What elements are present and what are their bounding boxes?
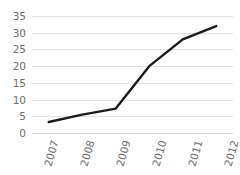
y-axis-tick-label: 5 — [19, 111, 26, 122]
y-axis-tick-label: 0 — [19, 128, 26, 139]
y-axis-tick-label: 25 — [13, 44, 26, 55]
y-axis-tick-label: 30 — [13, 27, 26, 38]
line-chart: 35 30 25 20 15 10 5 0 2007 2008 2009 201… — [0, 0, 240, 175]
series-polyline — [49, 26, 217, 122]
x-axis-tick-text: 2012 — [223, 139, 240, 168]
y-axis-tick-label: 35 — [13, 11, 26, 22]
x-axis-tick-labels: 2007 2008 2009 2010 2011 2012 — [32, 133, 233, 175]
x-axis-tick-text: 2007 — [43, 139, 60, 168]
x-axis-tick-text: 2009 — [115, 139, 132, 168]
y-axis-tick-label: 20 — [13, 61, 26, 72]
x-axis-tick-text: 2010 — [151, 139, 168, 168]
y-axis-tick-label: 10 — [13, 94, 26, 105]
y-axis-tick-label: 15 — [13, 78, 26, 89]
x-axis-tick-text: 2008 — [79, 139, 96, 168]
y-axis-tick-labels: 35 30 25 20 15 10 5 0 — [0, 0, 30, 175]
x-axis-tick-text: 2011 — [187, 139, 204, 168]
